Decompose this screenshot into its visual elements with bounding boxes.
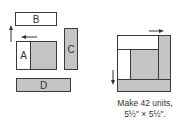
- assembled-unit: [117, 35, 171, 92]
- piece-a: A: [16, 41, 31, 70]
- arrow-right-icon: [149, 29, 164, 33]
- piece-b: B: [15, 12, 57, 26]
- piece-c-label: C: [67, 44, 74, 55]
- piece-d: D: [16, 78, 71, 92]
- arrow-down-icon: [111, 70, 115, 85]
- arrow-up-icon: [9, 25, 13, 42]
- unit-center-square: [130, 49, 159, 80]
- caption-line-2: 5½" × 5½".: [100, 109, 183, 120]
- piece-d-label: D: [40, 80, 47, 91]
- unit-piece-c: [158, 35, 171, 80]
- unit-piece-a: [117, 49, 131, 80]
- arrow-left-icon: [21, 35, 37, 39]
- piece-b-label: B: [33, 14, 40, 25]
- piece-c: C: [64, 28, 78, 70]
- piece-a-label: A: [20, 50, 27, 61]
- center-square: [30, 41, 57, 70]
- caption-line-1: Make 42 units,: [100, 98, 183, 109]
- unit-piece-b: [117, 35, 159, 50]
- unit-piece-d: [117, 79, 171, 92]
